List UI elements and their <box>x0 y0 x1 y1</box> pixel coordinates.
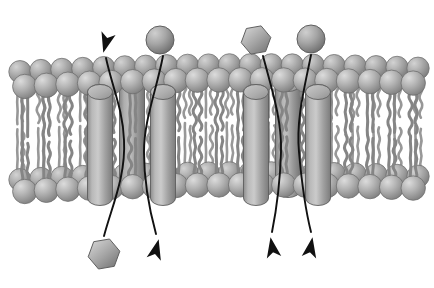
cell-membrane-illustration <box>0 0 434 288</box>
phospholipid-head <box>272 173 296 197</box>
phospholipid-head <box>185 68 209 92</box>
protein-cylinder-cap <box>306 85 331 100</box>
phospholipid-tail <box>420 129 421 168</box>
phospholipid-tail <box>178 137 179 176</box>
phospholipid-tail <box>22 140 23 182</box>
phospholipid-tail <box>43 94 45 138</box>
phospholipid-head <box>185 173 209 197</box>
phospholipid-head <box>120 174 144 198</box>
protein-cylinder-cap <box>244 85 269 100</box>
phospholipid-tail <box>232 126 233 165</box>
phospholipid-tail <box>237 89 238 133</box>
protein-cylinder-body <box>306 85 331 206</box>
phospholipid-tail <box>415 140 417 179</box>
phospholipid-head <box>336 174 360 198</box>
phospholipid-tail <box>286 137 287 176</box>
solute-sphere-top-left <box>146 26 174 54</box>
phospholipid-tail <box>65 138 66 180</box>
phospholipid-tail <box>130 91 131 135</box>
phospholipid-head <box>401 176 425 200</box>
phospholipid-head <box>358 69 382 93</box>
phospholipid-head <box>336 69 360 93</box>
phospholipid-head <box>56 72 80 96</box>
phospholipid-tail <box>373 91 374 132</box>
phospholipid-head <box>358 174 382 198</box>
phospholipid-head <box>34 73 58 97</box>
phospholipid-tail <box>135 91 136 132</box>
phospholipid-tail <box>410 137 411 179</box>
phospholipid-head <box>120 69 144 93</box>
phospholipid-head <box>13 74 37 98</box>
transmembrane-protein-4 <box>244 85 269 206</box>
membrane-diagram-canvas <box>0 0 434 288</box>
phospholipid-tail <box>373 138 374 177</box>
phospholipid-tail <box>394 91 395 132</box>
phospholipid-tail <box>389 136 390 178</box>
transmembrane-protein-3 <box>151 85 176 206</box>
phospholipid-head <box>379 175 403 199</box>
phospholipid-head <box>379 70 403 94</box>
phospholipid-head <box>56 177 80 201</box>
phospholipid-head <box>34 178 58 202</box>
protein-cylinder-cap <box>88 85 113 100</box>
phospholipid-tail <box>194 134 196 176</box>
phospholipid-tail <box>345 90 347 134</box>
phospholipid-head <box>207 173 231 197</box>
phospholipid-head <box>13 179 37 203</box>
transmembrane-protein-6 <box>306 85 331 206</box>
phospholipid-tail <box>357 127 358 166</box>
protein-cylinder-body <box>244 85 269 206</box>
protein-cylinder-body <box>151 85 176 206</box>
phospholipid-tail <box>221 137 223 176</box>
solute-sphere-top-right <box>297 25 325 53</box>
transmembrane-protein-1 <box>88 85 113 206</box>
protein-cylinder-body <box>88 85 113 206</box>
phospholipid-head <box>401 71 425 95</box>
phospholipid-head <box>272 68 296 92</box>
phospholipid-tail <box>27 143 29 182</box>
phospholipid-head <box>207 68 231 92</box>
phospholipid-tail <box>238 134 239 176</box>
